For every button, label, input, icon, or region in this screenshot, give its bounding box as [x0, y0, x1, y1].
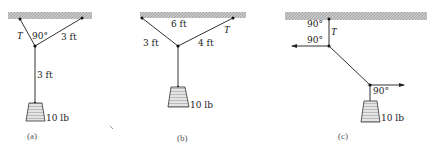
- statics-diagram: T 90° 3 ft 3 ft 10 lb (a) 6 ft 3 ft 4 ft…: [0, 0, 432, 155]
- weight-block: [26, 103, 45, 121]
- stray-mark: [110, 126, 113, 129]
- angle-label: 90°: [32, 31, 48, 41]
- rope-length-label: 4 ft: [198, 38, 214, 48]
- attach-point: [141, 17, 144, 20]
- angle-label: 90°: [373, 86, 389, 96]
- panel-c: 90° T 90° 90° 10 lb (c): [285, 12, 427, 141]
- rope-length-label: 3 ft: [143, 38, 159, 48]
- attach-point: [19, 18, 22, 21]
- junction-knot: [368, 83, 371, 86]
- weight-label: 10 lb: [46, 113, 69, 123]
- weight-block: [168, 87, 189, 107]
- junction-knot: [33, 44, 36, 47]
- weight-label: 10 lb: [381, 113, 404, 123]
- tension-label: T: [331, 26, 338, 37]
- angle-label: 90°: [307, 19, 323, 29]
- panel-caption: (c): [338, 131, 348, 141]
- rope-length-label: 3 ft: [61, 32, 77, 42]
- tension-label: T: [17, 30, 24, 41]
- attach-point: [232, 17, 235, 20]
- angle-label: 90°: [307, 35, 323, 45]
- weight-label: 10 lb: [190, 100, 213, 110]
- junction-knot: [328, 45, 331, 48]
- panel-caption: (a): [27, 131, 37, 141]
- panel-b: 6 ft 3 ft 4 ft T 10 lb (b): [140, 12, 246, 143]
- attach-point: [328, 18, 331, 21]
- junction-knot: [176, 44, 179, 47]
- panel-a: T 90° 3 ft 3 ft 10 lb (a): [8, 12, 92, 141]
- tension-label: T: [224, 24, 231, 35]
- weight-block: [361, 101, 380, 122]
- span-label: 6 ft: [171, 19, 187, 29]
- rope-diagonal: [329, 46, 370, 85]
- ceiling: [140, 12, 246, 18]
- rope-length-label: 3 ft: [37, 70, 53, 80]
- attach-point: [81, 17, 84, 20]
- panel-caption: (b): [177, 133, 188, 143]
